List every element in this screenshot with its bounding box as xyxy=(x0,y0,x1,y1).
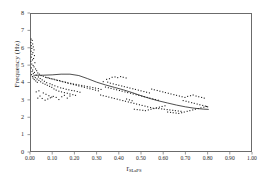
data-point xyxy=(50,97,51,98)
data-point xyxy=(180,111,181,112)
data-point xyxy=(103,95,104,96)
data-point xyxy=(31,39,32,40)
data-point xyxy=(127,87,128,88)
data-point xyxy=(57,86,58,87)
data-point xyxy=(34,72,35,73)
data-point xyxy=(42,79,43,80)
data-point xyxy=(183,100,184,101)
data-point xyxy=(132,100,133,101)
data-point xyxy=(187,96,188,97)
data-point xyxy=(68,89,69,90)
data-point xyxy=(182,96,183,97)
data-point xyxy=(175,110,176,111)
data-point xyxy=(33,65,34,66)
data-point xyxy=(114,98,115,99)
data-point xyxy=(198,96,199,97)
data-point xyxy=(45,100,46,101)
data-point xyxy=(33,46,34,47)
data-point xyxy=(167,109,168,110)
data-point xyxy=(134,109,135,110)
data-point xyxy=(181,112,182,113)
data-point xyxy=(33,58,34,59)
data-point xyxy=(138,90,139,91)
data-point xyxy=(71,90,72,91)
data-point xyxy=(129,99,130,100)
data-point xyxy=(73,84,74,85)
data-point xyxy=(66,89,67,90)
data-point xyxy=(74,90,75,91)
data-point xyxy=(32,69,33,70)
data-point xyxy=(45,94,46,95)
data-point xyxy=(133,103,134,104)
data-point xyxy=(98,90,99,91)
data-point xyxy=(190,95,191,96)
data-point xyxy=(49,78,50,79)
data-point xyxy=(119,90,120,91)
data-point xyxy=(137,109,138,110)
data-point xyxy=(33,78,34,79)
data-point xyxy=(40,78,41,79)
data-point xyxy=(36,70,37,71)
data-point xyxy=(109,78,110,79)
data-point xyxy=(70,83,71,84)
data-point xyxy=(117,77,118,78)
data-point xyxy=(34,62,35,63)
data-point xyxy=(162,91,163,92)
data-point xyxy=(31,54,32,55)
data-point xyxy=(194,103,195,104)
data-point xyxy=(54,85,55,86)
data-point xyxy=(52,84,53,85)
data-point xyxy=(51,87,52,88)
data-point xyxy=(31,74,32,75)
data-point xyxy=(53,96,54,97)
data-point xyxy=(202,105,203,106)
data-point xyxy=(118,85,119,86)
data-point xyxy=(124,86,125,87)
data-point xyxy=(37,72,38,73)
data-point xyxy=(142,105,143,106)
data-point xyxy=(37,78,38,79)
data-point xyxy=(144,106,145,107)
data-point xyxy=(204,98,205,99)
data-point xyxy=(47,85,48,86)
data-point xyxy=(195,109,196,110)
data-point xyxy=(125,101,126,102)
data-point xyxy=(203,107,204,108)
data-point xyxy=(35,80,36,81)
data-point xyxy=(116,84,117,85)
data-point xyxy=(130,93,131,94)
data-point xyxy=(156,107,157,108)
data-point xyxy=(143,91,144,92)
data-point xyxy=(31,57,32,58)
x-axis-label: rSLaPS xyxy=(108,164,160,173)
data-point xyxy=(147,106,148,107)
data-point xyxy=(176,95,177,96)
data-point xyxy=(31,45,32,46)
data-point xyxy=(42,83,43,84)
data-point xyxy=(48,95,49,96)
data-point xyxy=(117,99,118,100)
data-point xyxy=(63,88,64,89)
data-point xyxy=(189,110,190,111)
data-point xyxy=(146,92,147,93)
x-tick-label: 1.00 xyxy=(239,156,265,162)
data-point xyxy=(84,87,85,88)
data-point xyxy=(72,94,73,95)
data-point xyxy=(61,96,62,97)
data-point xyxy=(31,71,32,72)
data-point xyxy=(81,85,82,86)
data-point xyxy=(136,104,137,105)
data-point xyxy=(111,97,112,98)
data-point xyxy=(110,88,111,89)
trend-line xyxy=(34,74,208,109)
data-point xyxy=(30,42,31,43)
y-tick-label: 8 xyxy=(6,10,24,16)
data-point xyxy=(191,102,192,103)
data-point xyxy=(62,81,63,82)
data-point xyxy=(78,85,79,86)
scatter-points xyxy=(30,39,208,114)
data-point xyxy=(201,97,202,98)
data-point xyxy=(87,88,88,89)
y-tick-label: 2 xyxy=(6,114,24,120)
data-point xyxy=(112,77,113,78)
